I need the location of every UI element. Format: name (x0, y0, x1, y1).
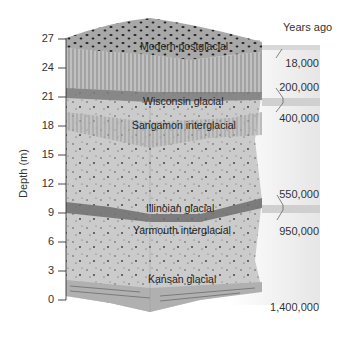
y-tick-27: 27 (32, 32, 54, 44)
y-tick-15: 15 (32, 148, 54, 160)
y-tick-12: 12 (32, 177, 54, 189)
age-200000: 200,000 (279, 81, 319, 93)
layer-label-kansan-glacial: Kansan glacial (148, 273, 216, 285)
layer-label-yarmouth-interglacial: Yarmouth interglacial (133, 224, 231, 236)
y-tick-24: 24 (32, 61, 54, 73)
layer-label-illinoian-glacial: Illinoian glacial (146, 202, 214, 214)
age-column-header: Years ago (283, 21, 332, 33)
age-18000: 18,000 (285, 57, 319, 69)
layer-label-wisconsin-glacial: Wisconsin glacial (143, 95, 224, 107)
y-tick-3: 3 (32, 264, 54, 276)
y-tick-21: 21 (32, 90, 54, 102)
age-1400000: 1,400,000 (270, 301, 319, 313)
y-axis-label: Depth (m) (17, 149, 29, 198)
age-400000: 400,000 (279, 112, 319, 124)
y-tick-9: 9 (32, 206, 54, 218)
y-tick-18: 18 (32, 119, 54, 131)
age-550000: 550,000 (279, 188, 319, 200)
y-tick-6: 6 (32, 235, 54, 247)
layer-label-sangamon-interglacial: Sangamon interglacial (132, 119, 236, 131)
age-950000: 950,000 (279, 225, 319, 237)
y-tick-0: 0 (32, 293, 54, 305)
layer-label-modern-postglacial: Modern postglacial (140, 40, 228, 52)
